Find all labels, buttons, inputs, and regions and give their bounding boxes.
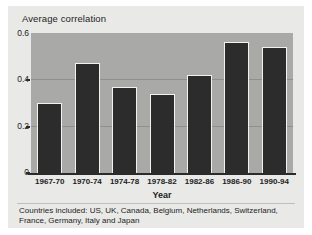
x-tick-label-1974-78: 1974-78 <box>106 177 143 186</box>
bar-1974-78 <box>112 87 137 173</box>
x-tick-label-1982-86: 1982-86 <box>181 177 218 186</box>
x-tick-label-1978-82: 1978-82 <box>143 177 180 186</box>
x-axis-tick-labels: 1967-701970-741974-781978-821982-861986-… <box>31 177 293 190</box>
x-axis-line <box>28 173 296 175</box>
footnote-line-2: France, Germany, Italy and Japan <box>19 216 295 226</box>
bar-1967-70 <box>37 103 62 173</box>
bar-1986-90 <box>224 42 249 173</box>
y-tick-mark-0.4 <box>26 79 30 81</box>
chart-screenshot: Average correlation 0.6 0.4 0.2 0 1967-7… <box>0 0 312 235</box>
y-axis: 0.6 0.4 0.2 0 <box>8 0 29 235</box>
x-axis-title: Year <box>31 190 293 200</box>
y-tick-mark-0.2 <box>26 126 30 128</box>
bar-series <box>31 33 293 173</box>
bar-1982-86 <box>187 75 212 173</box>
x-tick-label-1970-74: 1970-74 <box>68 177 105 186</box>
chart-title: Average correlation <box>22 13 106 24</box>
footnote: Countries included: US, UK, Canada, Belg… <box>19 206 295 226</box>
bar-1990-94 <box>262 47 287 173</box>
x-tick-label-1967-70: 1967-70 <box>31 177 68 186</box>
x-tick-label-1986-90: 1986-90 <box>218 177 255 186</box>
footnote-divider <box>17 203 295 204</box>
bar-1978-82 <box>150 94 175 173</box>
x-tick-label-1990-94: 1990-94 <box>256 177 293 186</box>
y-tick-label-0.6: 0.6 <box>17 28 29 38</box>
footnote-line-1: Countries included: US, UK, Canada, Belg… <box>19 206 295 216</box>
bar-1970-74 <box>75 63 100 173</box>
